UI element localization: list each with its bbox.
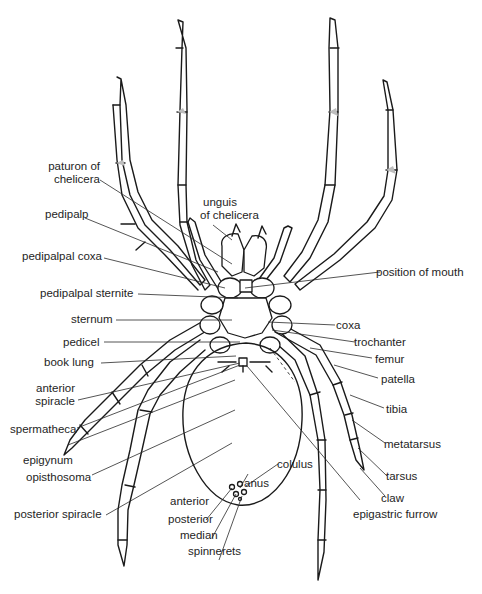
label-epigastric-furrow: epigastric furrow <box>353 508 437 521</box>
fang-right <box>258 226 266 238</box>
sternum-plate <box>219 298 272 338</box>
leg-1-right <box>284 18 339 282</box>
spider-anatomy-diagram: paturon of chelicera pedipalp pedipalpal… <box>0 0 482 594</box>
label-line-1: anterior <box>20 382 75 395</box>
label-book-lung: book lung <box>44 356 94 369</box>
label-paturon-of-chelicera: paturon of chelicera <box>20 160 100 186</box>
leg-3-right <box>275 322 364 470</box>
label-pedipalpal-sternite: pedipalpal sternite <box>40 287 133 300</box>
leg-4-right <box>270 330 326 580</box>
label-metatarsus: metatarsus <box>384 438 441 451</box>
label-anterior-spiracle: anterior spiracle <box>20 382 75 408</box>
label-tarsus: tarsus <box>386 470 417 483</box>
label-trochanter: trochanter <box>354 336 406 349</box>
label-patella: patella <box>381 373 415 386</box>
label-anterior-spinneret: anterior <box>170 495 209 508</box>
chelicera-left <box>222 234 244 276</box>
label-femur: femur <box>375 353 404 366</box>
label-epigynum: epigynum <box>23 454 73 467</box>
label-spermatheca: spermatheca <box>10 423 76 436</box>
label-median-spinneret: median <box>180 529 218 542</box>
pedipalp-left <box>188 218 225 292</box>
label-line-2: chelicera <box>20 173 100 186</box>
label-colulus: colulus <box>277 458 313 471</box>
label-posterior-spiracle: posterior spiracle <box>14 508 102 521</box>
label-pedipalpal-coxa: pedipalpal coxa <box>22 250 102 263</box>
label-anus: anus <box>244 477 269 490</box>
label-sternum: sternum <box>71 313 113 326</box>
label-spinnerets: spinnerets <box>188 545 241 558</box>
label-posterior-spinneret: posterior <box>168 513 213 526</box>
label-coxa: coxa <box>336 319 360 332</box>
label-position-of-mouth: position of mouth <box>376 266 464 279</box>
label-pedipalp: pedipalp <box>45 208 88 221</box>
chelicera-right <box>244 236 266 276</box>
label-tibia: tibia <box>386 403 407 416</box>
label-line-1: unguis <box>200 196 259 209</box>
label-pedicel: pedicel <box>63 336 99 349</box>
label-line-1: paturon of <box>20 160 100 173</box>
label-line-2: of chelicera <box>200 209 259 222</box>
epigynum-plate <box>239 358 247 366</box>
label-unguis-of-chelicera: unguis of chelicera <box>200 196 259 222</box>
label-line-2: spiracle <box>20 395 75 408</box>
label-opisthosoma: opisthosoma <box>26 471 91 484</box>
label-claw: claw <box>381 492 404 505</box>
leg-2-left <box>113 77 205 290</box>
